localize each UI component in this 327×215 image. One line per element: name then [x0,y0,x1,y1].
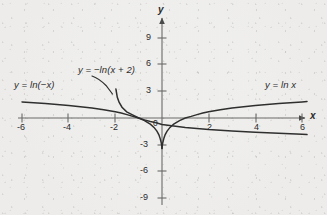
x-axis-name: x [310,110,316,121]
y-tick-label-9: 9 [146,32,151,42]
curve-label-neg-ln-x-plus-2: y = −ln(x + 2) [78,64,135,75]
x-tick-label-minus-4: -4 [63,122,71,132]
figure-canvas: -6 -4 -2 2 4 6 0 9 6 3 -3 -6 -9 x y y = … [0,0,327,215]
curve-label-ln-neg-x: y = ln(−x) [14,79,55,90]
coordinate-plot [0,0,327,215]
annotation-leader-line [92,76,113,94]
y-tick-label-6: 6 [146,58,151,68]
x-tick-label-4: 4 [254,122,259,132]
y-axis-name: y [158,4,164,15]
y-tick-label-minus-9: -9 [140,192,148,202]
x-tick-label-minus-6: -6 [17,122,25,132]
y-tick-label-minus-6: -6 [140,165,148,175]
y-tick-label-minus-3: -3 [140,139,148,149]
x-tick-label-2: 2 [207,122,212,132]
x-tick-label-6: 6 [300,122,305,132]
origin-label: 0 [153,118,158,128]
curve-ln-x [162,102,307,149]
curve-label-ln-x: y = ln x [265,79,296,90]
x-tick-label-minus-2: -2 [110,122,118,132]
y-tick-label-3: 3 [146,85,151,95]
